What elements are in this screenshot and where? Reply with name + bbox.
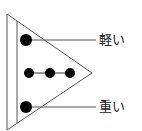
middle-dot-3 xyxy=(65,68,75,78)
top-dot xyxy=(20,34,32,46)
label-light: 軽い xyxy=(99,32,125,48)
label-heavy: 重い xyxy=(99,99,125,115)
bottom-dot xyxy=(20,101,32,113)
middle-dot-2 xyxy=(45,68,55,78)
middle-dot-1 xyxy=(24,68,34,78)
